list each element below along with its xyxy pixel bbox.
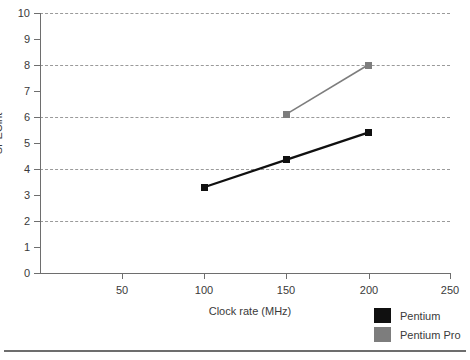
x-tick-150 [286,273,287,279]
y-tick-3 [34,195,40,196]
y-tick-label-9: 9 [4,34,30,45]
y-tick-10 [34,13,40,14]
gridline-y-2 [40,221,450,222]
y-tick-label-3: 3 [4,190,30,201]
x-tick-label-200: 200 [349,284,389,296]
data-point-pentium-150[interactable] [283,156,290,163]
y-axis-title: SPECint [0,113,4,155]
gridline-y-6 [40,117,450,118]
x-tick-200 [369,273,370,279]
y-tick-label-4: 4 [4,164,30,175]
legend-label-pentium: Pentium [400,310,440,322]
y-tick-label-7: 7 [4,86,30,97]
y-tick-4 [34,169,40,170]
legend-item-pentium[interactable]: Pentium [374,306,461,325]
line-pentium-pro [286,65,368,114]
x-axis-line [40,273,451,274]
x-tick-100 [204,273,205,279]
y-axis-line [40,13,41,274]
y-tick-6 [34,117,40,118]
y-tick-label-10: 10 [4,8,30,19]
y-tick-label-0: 0 [4,268,30,279]
gridline-y-8 [40,65,450,66]
y-tick-2 [34,221,40,222]
legend-swatch-pentium [374,308,391,323]
gridline-y-4 [40,169,450,170]
legend-item-pentium-pro[interactable]: Pentium Pro [374,325,461,344]
x-tick-label-50: 50 [102,284,142,296]
bottom-divider [4,350,466,352]
legend-label-pentium-pro: Pentium Pro [400,329,461,341]
y-tick-8 [34,65,40,66]
y-tick-1 [34,247,40,248]
data-point-pentium-200[interactable] [365,129,372,136]
y-tick-9 [34,39,40,40]
x-tick-label-100: 100 [184,284,224,296]
y-tick-label-2: 2 [4,216,30,227]
gridline-y-10 [40,13,450,14]
legend-swatch-pentium-pro [374,327,391,342]
y-tick-label-1: 1 [4,242,30,253]
specint-clock-rate-chart: 10 9 8 7 6 5 4 3 2 1 0 50 100 150 200 25… [0,0,470,360]
y-tick-label-5: 5 [4,138,30,149]
y-tick-7 [34,91,40,92]
x-tick-50 [122,273,123,279]
data-point-pentium-pro-150[interactable] [283,111,290,118]
y-tick-0 [34,273,40,274]
data-point-pentium-100[interactable] [201,184,208,191]
x-tick-250 [450,273,451,279]
y-tick-label-6: 6 [4,112,30,123]
y-tick-5 [34,143,40,144]
x-axis-title: Clock rate (MHz) [180,305,320,317]
x-tick-label-150: 150 [266,284,306,296]
data-point-pentium-pro-200[interactable] [365,62,372,69]
y-tick-label-8: 8 [4,60,30,71]
legend: Pentium Pentium Pro [374,306,461,344]
x-tick-label-250: 250 [430,284,470,296]
